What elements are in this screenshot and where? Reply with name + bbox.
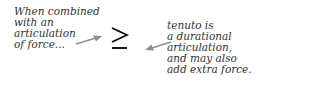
right-annotation: tenuto is a durational articulation, and… [167, 20, 251, 75]
right-annotation-line: add extra force. [167, 64, 251, 75]
accent-tenuto-symbol-icon [110, 26, 130, 52]
left-arrow-icon [74, 34, 104, 46]
